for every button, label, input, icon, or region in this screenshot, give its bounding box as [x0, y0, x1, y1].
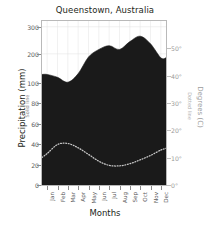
x-tick-mark — [68, 186, 69, 190]
plot-area — [41, 20, 167, 186]
x-tick-label: Jan — [49, 192, 55, 201]
x-tick-mark — [47, 186, 48, 190]
y-axis-subtitle-right: Dotted line — [187, 51, 193, 161]
x-tick-mark — [161, 186, 162, 190]
x-tick-mark — [99, 186, 100, 190]
y-tick-label-right: 30° — [171, 100, 182, 107]
x-tick-mark — [120, 186, 121, 190]
chart-root: Queenstown, Australia Precipitation (mm)… — [0, 0, 210, 227]
x-tick-label: Dec — [163, 192, 169, 203]
y-axis-subtitle-left: Solid line — [24, 56, 30, 156]
x-tick-mark — [140, 186, 141, 190]
x-tick-label: May — [91, 192, 97, 204]
precipitation-area-series — [42, 36, 166, 185]
y-axis-title-right: Degrees (C) — [196, 52, 204, 162]
chart-title: Queenstown, Australia — [0, 5, 210, 15]
y-tick-label-right: 0° — [171, 182, 178, 189]
plot-canvas — [42, 21, 166, 185]
x-tick-label: Feb — [60, 192, 66, 202]
y-tick-label-right: 10° — [171, 154, 182, 161]
y-tick-label-right: 20° — [171, 127, 182, 134]
x-tick-mark — [78, 186, 79, 190]
x-tick-label: Jul — [111, 192, 117, 199]
x-tick-label: Apr — [80, 192, 86, 202]
y-tick-mark-right — [167, 185, 171, 186]
x-tick-label: Mar — [70, 192, 76, 203]
x-tick-label: Sep — [132, 192, 138, 203]
x-tick-mark — [109, 186, 110, 190]
y-tick-label-right: 50° — [171, 45, 182, 52]
y-tick-mark-right — [167, 48, 171, 49]
x-tick-label: Aug — [122, 192, 128, 203]
y-tick-mark-right — [167, 130, 171, 131]
y-tick-mark-right — [167, 76, 171, 77]
x-tick-mark — [58, 186, 59, 190]
x-tick-label: Nov — [153, 192, 159, 203]
x-tick-mark — [89, 186, 90, 190]
x-tick-label: Jun — [101, 192, 107, 201]
x-tick-mark — [151, 186, 152, 190]
y-tick-label-right: 40° — [171, 72, 182, 79]
y-tick-mark-right — [167, 158, 171, 159]
y-tick-mark-right — [167, 103, 171, 104]
x-axis-title: Months — [0, 208, 210, 218]
x-tick-mark — [130, 186, 131, 190]
x-tick-label: Oct — [142, 192, 148, 202]
